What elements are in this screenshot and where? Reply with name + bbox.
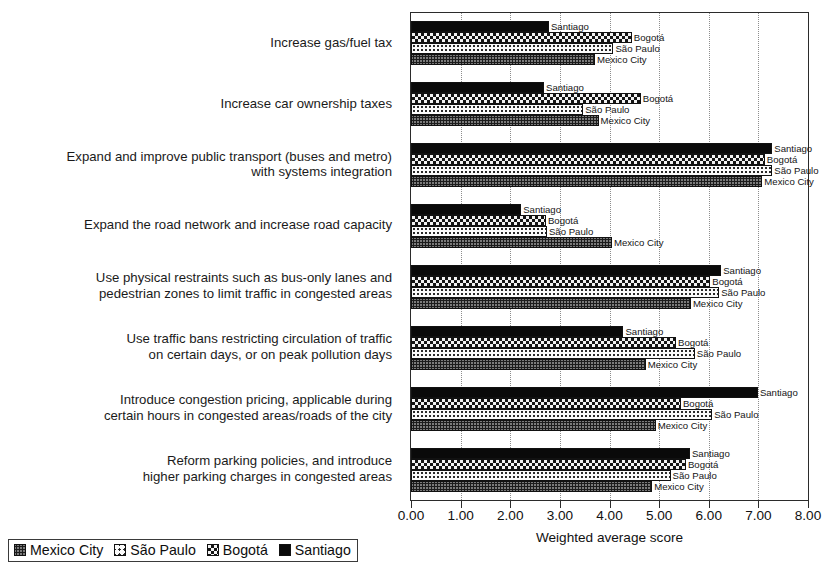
bar-santiago (411, 21, 549, 32)
bar-end-label: Mexico City (614, 237, 664, 248)
category-label: Increase car ownership taxes (220, 96, 392, 112)
bar-saopaulo (411, 409, 712, 420)
x-tick-label: 0.00 (398, 508, 424, 523)
bar-bogota (411, 276, 710, 287)
bar-end-label: Mexico City (648, 359, 698, 370)
bar-end-label: Santiago (692, 448, 730, 459)
bar-end-label: Bogotá (683, 398, 713, 409)
bar-end-label: Santiago (523, 204, 561, 215)
category-label: Use traffic bans restricting circulation… (126, 331, 392, 362)
category-label: Reform parking policies, and introduce h… (143, 453, 392, 484)
chart-legend: Mexico CitySão PauloBogotáSantiago (8, 539, 358, 562)
bar-end-label: São Paulo (714, 409, 758, 420)
bar-saopaulo (411, 43, 613, 54)
bar-end-label: Bogotá (688, 459, 718, 470)
bar-mexicocity (411, 298, 691, 309)
bar-bogota (411, 32, 632, 43)
bar-group: SantiagoBogotáSão PauloMexico City (411, 143, 808, 187)
x-tick (709, 501, 710, 508)
plot-area: SantiagoBogotáSão PauloMexico CitySantia… (410, 12, 809, 501)
bar-end-label: Bogotá (643, 93, 673, 104)
legend-label: Bogotá (223, 542, 268, 558)
bar-saopaulo (411, 226, 547, 237)
legend-item-bogota[interactable]: Bogotá (207, 542, 268, 558)
bar-end-label: Santiago (723, 265, 761, 276)
bar-end-label: Bogotá (548, 215, 578, 226)
bar-group: SantiagoBogotáSão PauloMexico City (411, 21, 808, 65)
bar-santiago (411, 143, 772, 154)
bar-end-label: Bogotá (634, 32, 664, 43)
bar-saopaulo (411, 470, 671, 481)
bar-end-label: São Paulo (549, 226, 593, 237)
x-tick-label: 8.00 (795, 508, 821, 523)
legend-swatch-icon (114, 544, 126, 556)
x-axis-ticks: 0.001.002.003.004.005.006.007.008.00 (410, 501, 809, 508)
x-tick-label: 4.00 (596, 508, 622, 523)
bar-group: SantiagoBogotáSão PauloMexico City (411, 82, 808, 126)
bar-santiago (411, 448, 690, 459)
legend-item-saopaulo[interactable]: São Paulo (114, 542, 195, 558)
bar-end-label: Santiago (774, 143, 812, 154)
bar-saopaulo (411, 348, 695, 359)
bar-mexicocity (411, 176, 762, 187)
bar-saopaulo (411, 165, 772, 176)
bar-mexicocity (411, 420, 656, 431)
bar-santiago (411, 265, 721, 276)
bar-mexicocity (411, 54, 595, 65)
x-axis-title: Weighted average score (410, 530, 809, 545)
x-tick-label: 2.00 (497, 508, 523, 523)
bar-bogota (411, 215, 546, 226)
bar-end-label: Bogotá (678, 337, 708, 348)
category-label: Increase gas/fuel tax (270, 35, 392, 51)
bar-bogota (411, 459, 686, 470)
bar-end-label: Mexico City (658, 420, 708, 431)
bar-bogota (411, 398, 681, 409)
bar-group: SantiagoBogotáSão PauloMexico City (411, 448, 808, 492)
legend-swatch-icon (279, 544, 291, 556)
x-tick (808, 501, 809, 508)
bar-end-label: Santiago (551, 21, 589, 32)
legend-label: Santiago (295, 542, 351, 558)
bar-end-label: São Paulo (585, 104, 629, 115)
x-tick (510, 501, 511, 508)
bar-bogota (411, 93, 641, 104)
bar-end-label: São Paulo (615, 43, 659, 54)
bar-end-label: São Paulo (673, 470, 717, 481)
legend-swatch-icon (207, 544, 219, 556)
x-tick (461, 501, 462, 508)
bar-bogota (411, 337, 676, 348)
category-label: Expand and improve public transport (bus… (67, 149, 392, 180)
bar-mexicocity (411, 481, 652, 492)
bar-saopaulo (411, 104, 583, 115)
bar-end-label: Santiago (760, 387, 798, 398)
bar-end-label: Mexico City (654, 481, 704, 492)
bar-group: SantiagoBogotáSão PauloMexico City (411, 265, 808, 309)
bar-santiago (411, 204, 521, 215)
bar-end-label: São Paulo (774, 165, 818, 176)
category-label-column: Increase gas/fuel taxIncrease car owners… (0, 12, 398, 496)
bar-santiago (411, 387, 758, 398)
x-tick-label: 6.00 (696, 508, 722, 523)
category-label: Use physical restraints such as bus-only… (96, 270, 392, 301)
bar-mexicocity (411, 359, 646, 370)
bar-end-label: Mexico City (597, 54, 647, 65)
x-tick-label: 3.00 (547, 508, 573, 523)
bar-mexicocity (411, 115, 599, 126)
x-tick (411, 501, 412, 508)
bar-end-label: Bogotá (712, 276, 742, 287)
category-label: Introduce congestion pricing, applicable… (104, 392, 392, 423)
bar-saopaulo (411, 287, 719, 298)
x-tick-label: 7.00 (745, 508, 771, 523)
legend-item-santiago[interactable]: Santiago (279, 542, 351, 558)
bar-santiago (411, 82, 544, 93)
bar-group: SantiagoBogotáSão PauloMexico City (411, 204, 808, 248)
bar-end-label: São Paulo (721, 287, 765, 298)
legend-item-mexicocity[interactable]: Mexico City (14, 542, 103, 558)
bar-end-label: Santiago (625, 326, 663, 337)
legend-label: São Paulo (130, 542, 195, 558)
chart-root: Increase gas/fuel taxIncrease car owners… (0, 0, 825, 567)
bar-end-label: Bogotá (767, 154, 797, 165)
bar-group: SantiagoBogotáSão PauloMexico City (411, 387, 808, 431)
bar-end-label: Mexico City (693, 298, 743, 309)
bar-bogota (411, 154, 765, 165)
